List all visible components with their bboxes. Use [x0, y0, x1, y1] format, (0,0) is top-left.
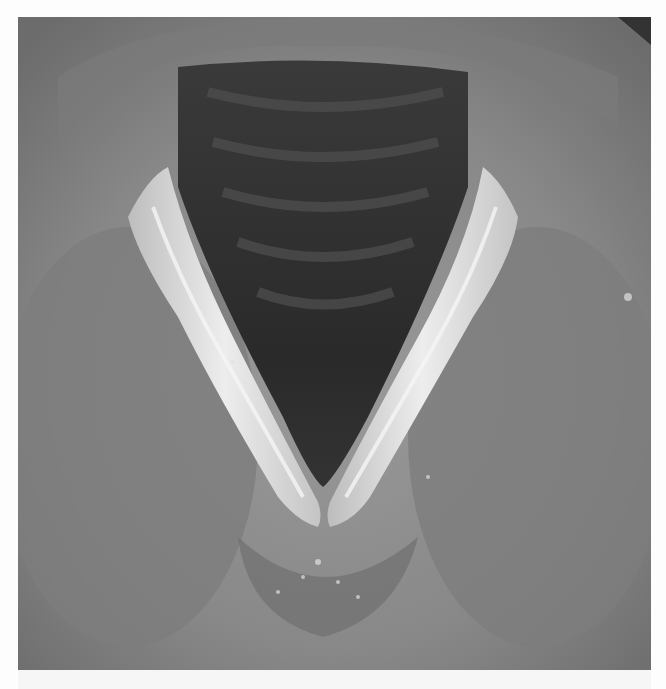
laryngoscopy-image [18, 17, 651, 670]
vocal-folds-illustration [18, 17, 651, 670]
bottom-margin [18, 670, 651, 689]
